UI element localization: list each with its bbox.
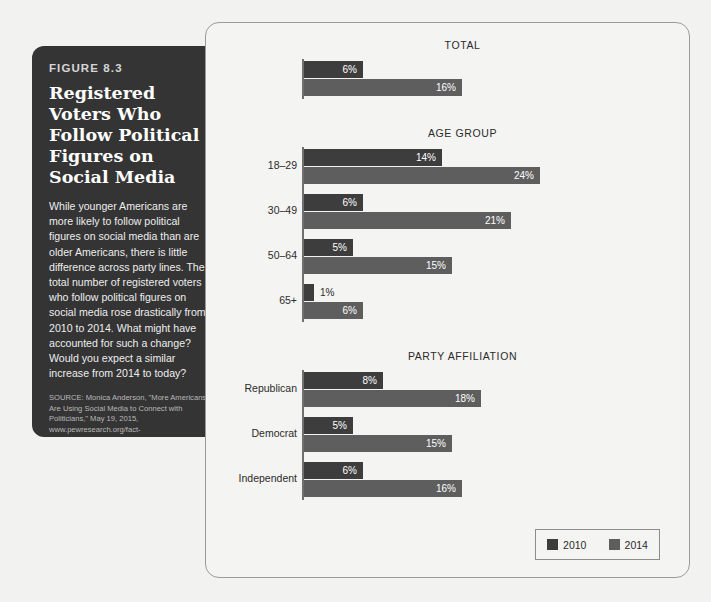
bar-2010: 5% — [304, 417, 353, 434]
axis-baseline — [302, 147, 304, 322]
chart-legend: 20102014 — [535, 529, 660, 560]
legend-label: 2014 — [625, 539, 648, 551]
bar-2014: 16% — [304, 480, 462, 497]
bar-pair: 8%18% — [304, 372, 481, 407]
legend-item-2014: 2014 — [609, 539, 648, 551]
chart-category-row: Democrat5%15% — [206, 417, 689, 453]
bar-2014: 16% — [304, 79, 462, 96]
chart-category-row: 18–2914%24% — [206, 149, 689, 185]
bar-2010: 6% — [304, 61, 363, 78]
chart-category-row: 6%16% — [206, 61, 689, 97]
legend-item-2010: 2010 — [547, 539, 586, 551]
bar-value-label: 5% — [333, 419, 347, 432]
bar-value-label: 16% — [436, 482, 456, 495]
bar-2014: 6% — [304, 302, 363, 319]
legend-label: 2010 — [563, 539, 586, 551]
bar-value-label: 6% — [343, 464, 357, 477]
chart-category-row: Independent6%16% — [206, 462, 689, 498]
category-label: Independent — [207, 472, 297, 484]
bar-value-label: 16% — [436, 81, 456, 94]
bar-pair: 5%15% — [304, 417, 452, 452]
bar-value-label: 24% — [514, 169, 534, 182]
chart-category-row: 65+1%6% — [206, 284, 689, 320]
bar-pair: 5%15% — [304, 239, 452, 274]
bar-2010: 6% — [304, 194, 363, 211]
figure-source-citation: SOURCE: Monica Anderson, "More Americans… — [49, 393, 211, 437]
bar-value-label: 15% — [426, 437, 446, 450]
axis-baseline — [302, 370, 304, 500]
bar-2014: 15% — [304, 257, 452, 274]
legend-swatch — [547, 539, 558, 550]
category-label: 30–49 — [207, 204, 297, 216]
chart-category-row: Republican8%18% — [206, 372, 689, 408]
section-heading: TOTAL — [206, 39, 689, 51]
bar-pair: 14%24% — [304, 149, 540, 184]
section-heading: AGE GROUP — [206, 127, 689, 139]
bar-2010: 5% — [304, 239, 353, 256]
figure-body-text: While younger Americans are more likely … — [49, 199, 211, 381]
bar-2010: 1% — [304, 284, 314, 301]
bar-2014: 18% — [304, 390, 481, 407]
bar-2014: 15% — [304, 435, 452, 452]
bar-value-label: 15% — [426, 259, 446, 272]
figure-title: Registered Voters Who Follow Political F… — [49, 83, 211, 188]
category-label: Democrat — [207, 427, 297, 439]
bar-pair: 6%16% — [304, 462, 462, 497]
chart-card: TOTAL6%16%AGE GROUP18–2914%24%30–496%21%… — [205, 22, 690, 578]
bar-value-label: 5% — [333, 241, 347, 254]
category-label: 50–64 — [207, 249, 297, 261]
bar-value-label: 18% — [455, 392, 475, 405]
legend-swatch — [609, 539, 620, 550]
bar-2010: 6% — [304, 462, 363, 479]
figure-caption-panel: FIGURE 8.3 Registered Voters Who Follow … — [32, 46, 228, 437]
bar-2014: 21% — [304, 212, 511, 229]
bar-pair: 6%16% — [304, 61, 462, 96]
bar-value-label: 6% — [343, 196, 357, 209]
chart-category-row: 30–496%21% — [206, 194, 689, 230]
bar-2010: 14% — [304, 149, 442, 166]
section-heading: PARTY AFFILIATION — [206, 350, 689, 362]
bar-value-label: 14% — [416, 151, 436, 164]
category-label: 18–29 — [207, 159, 297, 171]
bar-value-label: 21% — [485, 214, 505, 227]
bar-value-label: 8% — [363, 374, 377, 387]
bar-pair: 6%21% — [304, 194, 511, 229]
category-label: Republican — [207, 382, 297, 394]
category-label: 65+ — [207, 294, 297, 306]
bar-value-label: 6% — [343, 63, 357, 76]
chart-category-row: 50–645%15% — [206, 239, 689, 275]
axis-baseline — [302, 59, 304, 99]
bar-2014: 24% — [304, 167, 540, 184]
bar-pair: 1%6% — [304, 284, 363, 319]
bar-value-label: 1% — [320, 286, 334, 299]
figure-number: FIGURE 8.3 — [49, 62, 211, 74]
bar-2010: 8% — [304, 372, 383, 389]
bar-value-label: 6% — [343, 304, 357, 317]
